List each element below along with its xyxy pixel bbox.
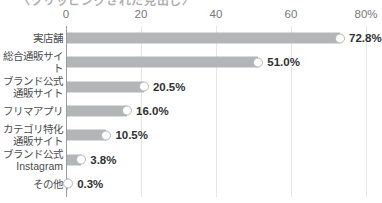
bar-container [67,178,68,189]
bar [67,33,340,44]
value-label: 3.8% [90,154,116,166]
bar-container [67,105,127,116]
value-label: 72.8% [349,32,382,44]
category-label: 実店舗 [1,32,63,44]
bar-end-marker [101,130,111,140]
category-label: フリマアプリ [1,105,63,117]
bar-end-marker [63,179,73,189]
bar-end-marker [253,57,263,67]
bar-end-marker [335,33,345,43]
x-tick-label-80: 80% [354,8,377,20]
bar-row: フリマアプリ16.0% [0,99,366,123]
bar-container [67,33,340,44]
category-label: 総合通販サイト [1,50,63,74]
value-label: 20.5% [153,81,186,93]
category-label: カテゴリ特化 通販サイト [1,123,63,147]
category-label: ブランド公式 Instagram [1,148,63,172]
bar [67,81,144,92]
bar-container [67,81,144,92]
clipped-title-text: 〈クリッピングされた見出し〉 [18,0,194,6]
bar-row: その他0.3% [0,172,366,196]
bar-row: 総合通販サイト51.0% [0,50,366,74]
bar-end-marker [122,106,132,116]
category-label: その他 [1,178,63,190]
value-label: 10.5% [115,129,148,141]
bar [67,105,127,116]
bar-end-marker [76,155,86,165]
x-tick-label-40: 40 [210,8,223,20]
value-label: 51.0% [267,56,300,68]
x-tick-label-20: 20 [135,8,148,20]
gridline-80 [366,26,367,197]
plot-area: 実店舗72.8%総合通販サイト51.0%ブランド公式 通販サイト20.5%フリマ… [0,26,366,197]
x-tick-label-0: 0 [63,8,69,20]
bar-row: 実店舗72.8% [0,26,366,50]
bar-row: ブランド公式 Instagram3.8% [0,148,366,172]
bar [67,57,258,68]
bar-end-marker [139,82,149,92]
value-label: 16.0% [136,105,169,117]
bar-container [67,57,258,68]
clipped-title-strip: 〈クリッピングされた見出し〉 [0,0,366,6]
category-label: ブランド公式 通販サイト [1,75,63,99]
bar-row: ブランド公式 通販サイト20.5% [0,75,366,99]
bar-container [67,154,81,165]
x-tick-label-60: 60 [285,8,298,20]
bar-container [67,130,106,141]
x-axis-tick-labels: 020406080% [0,8,366,24]
value-label: 0.3% [77,178,103,190]
bar-row: カテゴリ特化 通販サイト10.5% [0,123,366,147]
